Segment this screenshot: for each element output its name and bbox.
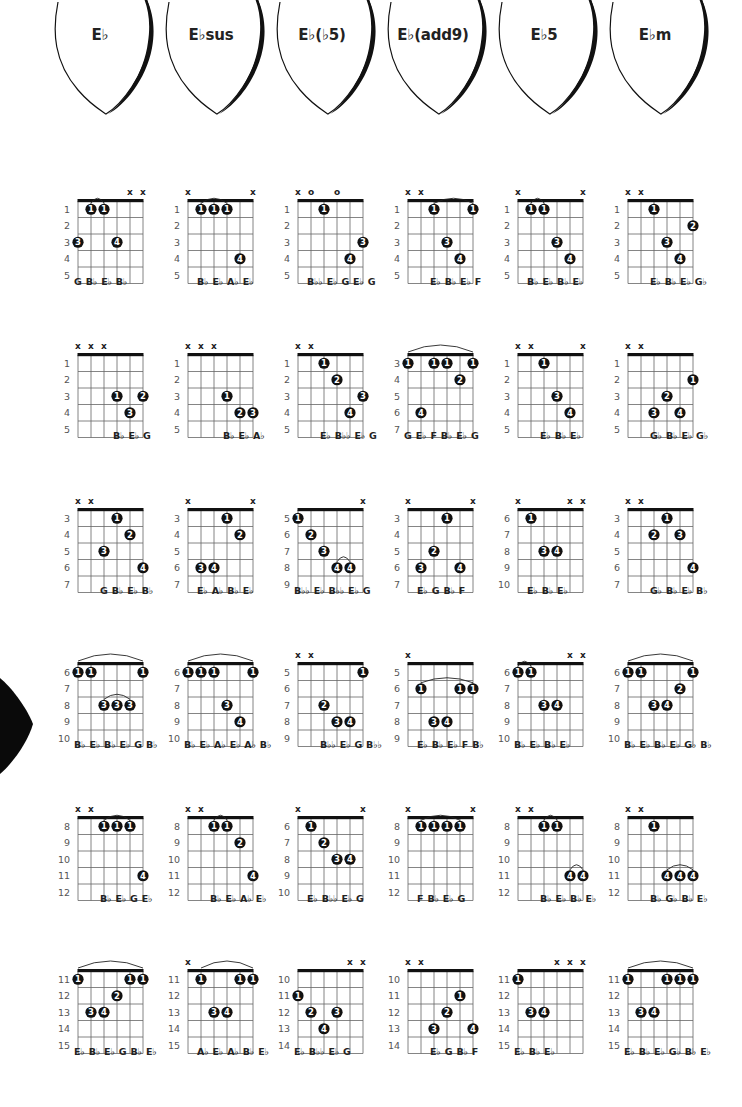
- finger-dot: 4: [344, 716, 355, 727]
- fret-number: 5: [64, 546, 70, 557]
- fret-number: 7: [284, 546, 290, 557]
- chord-diagram: 12345xxx134E♭ B♭ E♭: [496, 333, 596, 458]
- muted-string-icon: x: [101, 341, 107, 351]
- chord-note-names: B♭ E♭ A♭ E♭ A♭ B♭: [184, 739, 271, 750]
- open-string-icon: o: [334, 187, 340, 197]
- fret-number: 8: [504, 821, 510, 832]
- nut-bar: [518, 199, 584, 202]
- finger-dot: 4: [331, 562, 342, 573]
- fret-number: 6: [504, 513, 510, 524]
- svg-text:2: 2: [334, 375, 340, 385]
- fret-number: 15: [608, 1040, 620, 1051]
- chord-note-names: B♭♭ E♭ B♭♭ E♭ G: [294, 585, 370, 596]
- finger-dot: 4: [221, 1007, 232, 1018]
- finger-dot: 4: [674, 407, 685, 418]
- muted-string-icon: x: [580, 496, 586, 506]
- svg-text:4: 4: [114, 237, 120, 247]
- finger-dot: 1: [538, 204, 549, 215]
- chord-note-names: E♭ B♭ E♭ G♭: [650, 276, 707, 287]
- finger-dot: 1: [454, 683, 465, 694]
- svg-text:3: 3: [127, 408, 133, 418]
- chord-diagram: 12345xx1134E♭ B♭ E♭ F: [386, 179, 486, 304]
- nut-bar: [188, 969, 254, 972]
- fret-number: 13: [168, 1007, 180, 1018]
- fret-number: 3: [64, 237, 70, 248]
- svg-text:2: 2: [457, 375, 463, 385]
- chord-note-names: B♭ E♭ B♭ E♭: [527, 276, 583, 287]
- chord-diagram: 678910xx1234E♭ B♭♭ E♭ G: [276, 796, 376, 921]
- svg-text:4: 4: [250, 871, 256, 881]
- svg-text:1: 1: [664, 974, 670, 984]
- finger-dot: 1: [525, 513, 536, 524]
- chord-diagram: 1011121314xx1234E♭ B♭♭ E♭ G: [276, 949, 376, 1074]
- muted-string-icon: x: [295, 804, 301, 814]
- finger-dot: 2: [428, 546, 439, 557]
- fret-number: 8: [64, 821, 70, 832]
- finger-dot: 1: [111, 821, 122, 832]
- fret-number: 9: [614, 716, 620, 727]
- barre-arc: [188, 654, 253, 661]
- finger-dot: 1: [687, 374, 698, 385]
- chord-diagram: 12345xxx123B♭ E♭ A♭: [166, 333, 266, 458]
- nut-bar: [628, 969, 694, 972]
- finger-dot: 3: [98, 700, 109, 711]
- svg-text:1: 1: [237, 974, 243, 984]
- nut-bar: [628, 508, 694, 511]
- chord-note-names: E♭ A♭ B♭ E♭: [197, 585, 253, 596]
- svg-text:4: 4: [580, 871, 586, 881]
- fret-number: 4: [174, 529, 180, 540]
- muted-string-icon: x: [515, 341, 521, 351]
- fret-number: 5: [64, 424, 70, 435]
- svg-text:1: 1: [75, 667, 81, 677]
- fret-number: 4: [394, 253, 400, 264]
- fret-number: 5: [504, 424, 510, 435]
- muted-string-icon: x: [250, 187, 256, 197]
- chord-diagram: 89101112xx1144B♭ E♭ B♭ E♭: [496, 796, 596, 921]
- svg-text:1: 1: [541, 358, 547, 368]
- finger-dot: 2: [234, 407, 245, 418]
- finger-dot: 4: [661, 700, 672, 711]
- svg-text:3: 3: [360, 391, 366, 401]
- svg-text:1: 1: [211, 204, 217, 214]
- fret-number: 11: [168, 974, 180, 985]
- chord-diagram: 56789x11134E♭ B♭ E♭ F B♭: [386, 642, 486, 767]
- chord-note-names: B♭ E♭ B♭ E♭ G B♭: [74, 739, 157, 750]
- finger-dot: 4: [648, 1007, 659, 1018]
- fret-number: 4: [614, 529, 620, 540]
- nut-bar: [298, 199, 364, 202]
- muted-string-icon: x: [360, 496, 366, 506]
- fret-number: 10: [608, 854, 620, 865]
- fret-number: 4: [504, 253, 510, 264]
- svg-text:3: 3: [321, 546, 327, 556]
- muted-string-icon: x: [185, 804, 191, 814]
- muted-string-icon: x: [308, 341, 314, 351]
- svg-text:1: 1: [88, 204, 94, 214]
- muted-string-icon: x: [470, 496, 476, 506]
- svg-text:1: 1: [88, 667, 94, 677]
- finger-dot: 1: [98, 204, 109, 215]
- finger-dot: 3: [674, 529, 685, 540]
- svg-text:1: 1: [308, 821, 314, 831]
- muted-string-icon: x: [405, 957, 411, 967]
- chord-diagram: 1011121314xx1234E♭ G B♭ F: [386, 949, 486, 1074]
- finger-dot: 4: [344, 407, 355, 418]
- svg-text:4: 4: [237, 717, 243, 727]
- chord-diagram: 34567xx1234E♭ A♭ B♭ E♭: [166, 488, 266, 613]
- nut-bar: [298, 662, 364, 665]
- nut-bar: [298, 816, 364, 819]
- open-string-icon: o: [308, 187, 314, 197]
- svg-text:1: 1: [515, 667, 521, 677]
- fret-number: 7: [174, 683, 180, 694]
- nut-bar: [188, 662, 254, 665]
- fret-number: 12: [498, 887, 510, 898]
- muted-string-icon: x: [88, 804, 94, 814]
- fret-number: 12: [58, 887, 70, 898]
- chord-note-names: B♭ E♭ B♭ E♭ G♭ B♭: [624, 739, 712, 750]
- muted-string-icon: x: [625, 341, 631, 351]
- nut-bar: [78, 969, 144, 972]
- finger-dot: 1: [221, 821, 232, 832]
- fret-number: 9: [614, 837, 620, 848]
- fret-number: 2: [504, 374, 510, 385]
- finger-dot: 3: [357, 237, 368, 248]
- finger-dot: 3: [551, 237, 562, 248]
